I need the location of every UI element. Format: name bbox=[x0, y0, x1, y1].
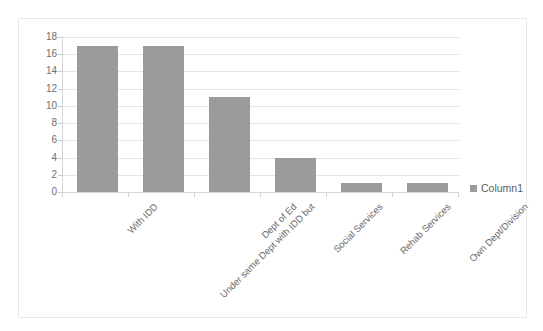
y-axis-line bbox=[62, 37, 63, 193]
y-tick-2 bbox=[58, 175, 62, 176]
x-axis-label-with-idd: With IDD bbox=[125, 201, 160, 236]
y-axis-label-14: 14 bbox=[23, 66, 57, 76]
gridline-10 bbox=[62, 106, 459, 107]
y-tick-16 bbox=[58, 54, 62, 55]
y-axis-label-2: 2 bbox=[23, 170, 57, 180]
bar-under-same-dept-with-idd[interactable] bbox=[143, 46, 184, 192]
gridline-16 bbox=[62, 54, 459, 55]
bar-with-idd[interactable] bbox=[77, 46, 118, 192]
y-axis-label-10: 10 bbox=[23, 101, 57, 111]
bar-social-services[interactable] bbox=[275, 158, 316, 192]
x-axis-label-own-dept-division: Own Dept/Division bbox=[467, 201, 530, 264]
clipped-text-fragments bbox=[0, 0, 543, 7]
x-axis-label-under-same-dept-with-idd: Under same Dept with IDD but bbox=[218, 201, 317, 300]
y-tick-8 bbox=[58, 123, 62, 124]
bar-own-dept-division[interactable] bbox=[407, 183, 448, 192]
y-axis-label-16: 16 bbox=[23, 49, 57, 59]
y-tick-18 bbox=[58, 37, 62, 38]
y-tick-14 bbox=[58, 71, 62, 72]
x-axis-label-social-services: Social Services bbox=[331, 201, 385, 255]
gridline-2 bbox=[62, 175, 459, 176]
bar-dept-of-ed[interactable] bbox=[209, 97, 250, 192]
y-axis-label-0: 0 bbox=[23, 187, 57, 197]
y-tick-10 bbox=[58, 106, 62, 107]
x-axis-label-rehab-services: Rehab Services bbox=[398, 201, 453, 256]
bar-rehab-services[interactable] bbox=[341, 183, 382, 192]
plot-area bbox=[62, 37, 459, 192]
gridline-6 bbox=[62, 140, 459, 141]
y-axis-label-4: 4 bbox=[23, 153, 57, 163]
gridline-12 bbox=[62, 89, 459, 90]
legend-swatch-icon bbox=[470, 185, 477, 192]
gridline-18 bbox=[62, 37, 459, 38]
legend-entry-label: Column1 bbox=[481, 183, 523, 194]
y-axis-label-8: 8 bbox=[23, 118, 57, 128]
x-axis-category-labels: With IDD Under same Dept with IDD but De… bbox=[62, 197, 522, 317]
y-tick-12 bbox=[58, 89, 62, 90]
y-tick-4 bbox=[58, 158, 62, 159]
y-axis-tick-labels: 18 16 14 12 10 8 6 4 2 0 bbox=[19, 37, 57, 193]
y-axis-label-18: 18 bbox=[23, 32, 57, 42]
gridline-14 bbox=[62, 71, 459, 72]
gridline-4 bbox=[62, 158, 459, 159]
gridline-8 bbox=[62, 123, 459, 124]
chart-container: 18 16 14 12 10 8 6 4 2 0 With IDD Under … bbox=[18, 18, 527, 318]
chart-legend[interactable]: Column1 bbox=[470, 183, 523, 194]
y-axis-label-12: 12 bbox=[23, 84, 57, 94]
y-axis-label-6: 6 bbox=[23, 135, 57, 145]
y-tick-6 bbox=[58, 140, 62, 141]
